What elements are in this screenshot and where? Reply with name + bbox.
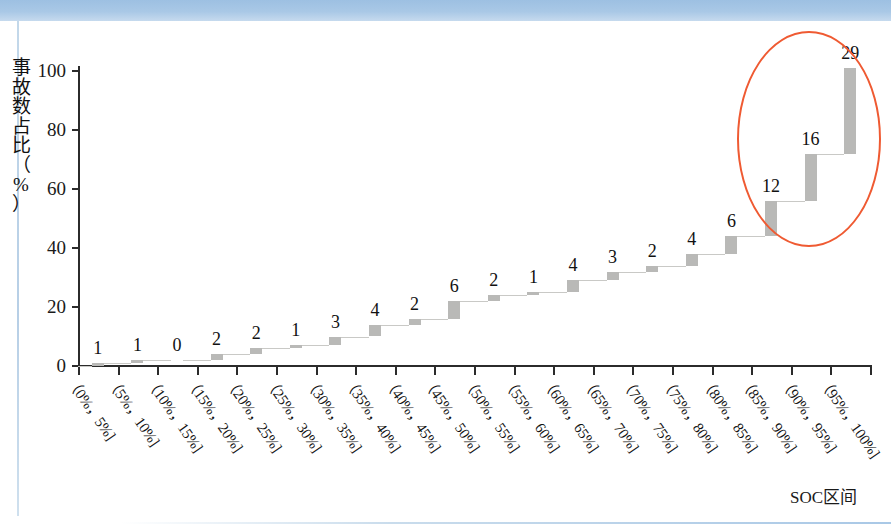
- step-connector: [500, 295, 528, 296]
- bar: [607, 272, 619, 281]
- x-axis-title: SOC区间: [790, 483, 857, 508]
- y-axis-title-char: 比: [8, 136, 34, 156]
- bar-value-label: 4: [672, 230, 712, 248]
- step-connector: [539, 292, 567, 293]
- step-connector: [698, 254, 726, 255]
- bar-value-label: 4: [355, 301, 395, 319]
- step-connector: [223, 354, 251, 355]
- bar: [448, 301, 460, 319]
- bar: [290, 345, 302, 348]
- bar-value-label: 2: [236, 324, 276, 342]
- bar-value-label: 2: [395, 295, 435, 313]
- bar-value-label: 6: [434, 277, 474, 295]
- bar-value-label: 1: [513, 268, 553, 286]
- bar: [131, 360, 143, 363]
- bar-value-label: 3: [315, 313, 355, 331]
- bar: [567, 280, 579, 292]
- bar-value-label: 2: [197, 330, 237, 348]
- x-axis-tick: [870, 367, 872, 375]
- y-axis-title-char: （: [8, 156, 34, 176]
- step-connector: [183, 360, 211, 361]
- step-connector: [619, 272, 647, 273]
- bar: [250, 348, 262, 354]
- step-connector: [104, 363, 132, 364]
- y-axis-tick-label: 100: [16, 61, 66, 80]
- bar-value-label: 3: [593, 248, 633, 266]
- y-axis-tick-label: 0: [16, 356, 66, 375]
- bar-value-label: 2: [474, 271, 514, 289]
- step-connector: [579, 280, 607, 281]
- bar: [211, 354, 223, 360]
- bar: [686, 254, 698, 266]
- bar-value-label: 1: [276, 321, 316, 339]
- figure-page: 事 故 数 占 比 （ % ） 020406080100 （0%，5%]（5%，…: [0, 0, 891, 528]
- bar-value-label: 1: [78, 339, 118, 357]
- step-connector: [421, 319, 449, 320]
- step-connector: [658, 266, 686, 267]
- step-connector: [262, 348, 290, 349]
- bar: [369, 325, 381, 337]
- bar: [488, 295, 500, 301]
- bar: [329, 337, 341, 346]
- y-axis-title-char: 故: [8, 78, 34, 98]
- step-connector: [302, 345, 330, 346]
- bar: [527, 292, 539, 295]
- y-axis-tick-label: 80: [16, 120, 66, 139]
- y-axis-tick-label: 40: [16, 238, 66, 257]
- bar: [725, 236, 737, 254]
- step-connector: [381, 325, 409, 326]
- bar-value-label: 1: [117, 336, 157, 354]
- y-axis-title-char: 数: [8, 97, 34, 117]
- bar: [646, 266, 658, 272]
- step-connector: [78, 366, 92, 367]
- page-bottom-rule: [120, 522, 891, 524]
- y-axis-tick-label: 20: [16, 297, 66, 316]
- bar: [92, 363, 104, 366]
- bar-value-label: 4: [553, 256, 593, 274]
- step-connector: [737, 236, 765, 237]
- page-top-band: [0, 0, 891, 21]
- step-connector: [143, 360, 171, 361]
- y-axis-tick-label: 60: [16, 179, 66, 198]
- bar-value-label: 6: [711, 212, 751, 230]
- bar-value-label: 0: [157, 336, 197, 354]
- bar-value-label: 2: [632, 242, 672, 260]
- bar: [409, 319, 421, 325]
- step-connector: [460, 301, 488, 302]
- highlight-ellipse-annotation: [737, 31, 881, 247]
- step-connector: [341, 337, 369, 338]
